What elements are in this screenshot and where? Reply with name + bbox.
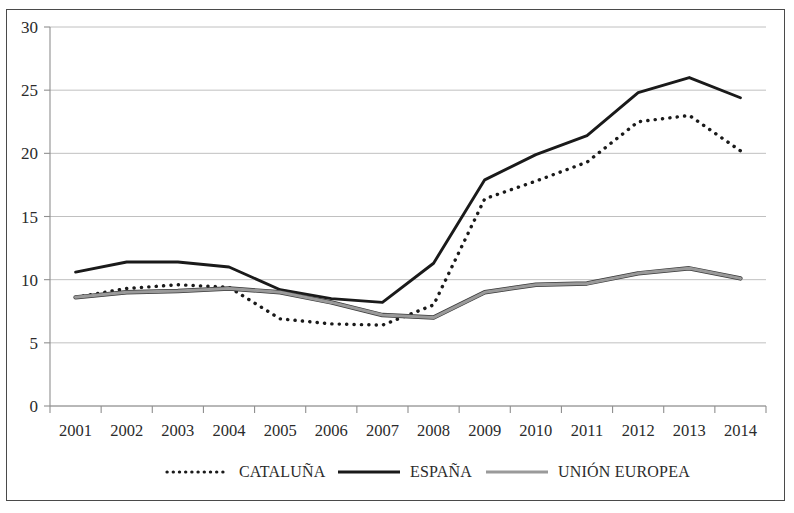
legend-item-españa: ESPAÑA — [338, 463, 472, 480]
legend-label-0: CATALUÑA — [239, 463, 326, 480]
data-series-layer — [76, 78, 741, 326]
legend-item-unión-europea: UNIÓN EUROPEA — [486, 462, 690, 480]
x-tick-label-2013: 2013 — [673, 421, 706, 440]
series-line-cataluña — [76, 115, 741, 325]
legend-label-1: ESPAÑA — [410, 463, 472, 480]
x-tick-label-2003: 2003 — [161, 421, 194, 440]
y-tick-label-15: 15 — [21, 208, 38, 227]
x-tick-label-2010: 2010 — [519, 421, 552, 440]
x-tick-label-2011: 2011 — [571, 421, 603, 440]
x-tick-label-2008: 2008 — [417, 421, 450, 440]
x-tick-label-2014: 2014 — [724, 421, 757, 440]
y-tick-label-5: 5 — [30, 334, 39, 353]
x-axis-tick-labels: 2001200220032004200520062007200820092010… — [59, 421, 757, 440]
y-tick-label-10: 10 — [21, 271, 38, 290]
legend-label-2: UNIÓN EUROPEA — [558, 462, 690, 480]
chart-legend: CATALUÑAESPAÑAUNIÓN EUROPEA — [167, 462, 690, 480]
x-tick-label-2012: 2012 — [622, 421, 655, 440]
x-tick-label-2001: 2001 — [59, 421, 92, 440]
x-tick-label-2009: 2009 — [468, 421, 501, 440]
y-tick-label-25: 25 — [21, 81, 38, 100]
series-line-españa — [76, 78, 741, 303]
x-tick-label-2002: 2002 — [110, 421, 143, 440]
x-tick-label-2007: 2007 — [366, 421, 399, 440]
chart-figure: 051015202530 200120022003200420052006200… — [0, 0, 794, 513]
x-tick-label-2004: 2004 — [213, 421, 246, 440]
legend-item-cataluña: CATALUÑA — [167, 463, 326, 480]
y-tick-label-0: 0 — [30, 397, 39, 416]
y-tick-label-20: 20 — [21, 144, 38, 163]
x-tick-label-2006: 2006 — [315, 421, 348, 440]
series-line-unión-europea-layer0 — [76, 268, 741, 317]
y-axis-tick-labels: 051015202530 — [21, 18, 38, 416]
x-tick-label-2005: 2005 — [264, 421, 297, 440]
y-gridlines — [50, 27, 766, 406]
line-chart-canvas: 051015202530 200120022003200420052006200… — [0, 0, 794, 513]
chart-axes — [44, 27, 766, 413]
y-tick-label-30: 30 — [21, 18, 38, 37]
